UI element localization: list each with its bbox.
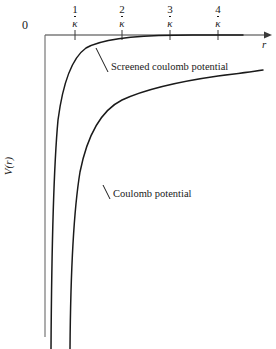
y-axis-label: V(r) bbox=[2, 144, 14, 188]
coulomb-curve bbox=[70, 70, 263, 349]
tick-numerator: 1 bbox=[70, 4, 80, 16]
x-tick-label-4: 4 κ bbox=[203, 4, 233, 29]
screened-coulomb-curve-label: Screened coulomb potential bbox=[111, 61, 228, 72]
x-tick-label-1: 1 κ bbox=[60, 4, 90, 29]
x-tick-label-2: 2 κ bbox=[107, 4, 137, 29]
tick-denominator: κ bbox=[213, 17, 223, 29]
tick-denominator: κ bbox=[117, 17, 127, 29]
origin-label: 0 bbox=[22, 18, 28, 33]
screened-label-leader bbox=[96, 48, 108, 72]
tick-denominator: κ bbox=[70, 17, 80, 29]
tick-numerator: 2 bbox=[117, 4, 127, 16]
coulomb-label-leader bbox=[103, 185, 110, 199]
coulomb-curve-label: Coulomb potential bbox=[113, 188, 191, 199]
screened-coulomb-potential-figure: 0 1 κ 2 κ 3 κ 4 κ r V(r) Screened coulom… bbox=[0, 0, 276, 349]
tick-denominator: κ bbox=[165, 17, 175, 29]
tick-numerator: 4 bbox=[213, 4, 223, 16]
tick-numerator: 3 bbox=[165, 4, 175, 16]
plot-canvas bbox=[0, 0, 276, 349]
x-tick-label-3: 3 κ bbox=[155, 4, 185, 29]
x-axis-label: r bbox=[262, 38, 266, 50]
